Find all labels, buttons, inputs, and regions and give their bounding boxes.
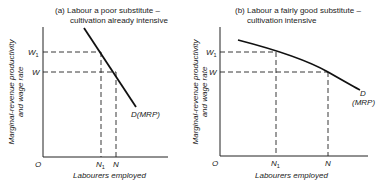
panel-a-w1-label: W1 bbox=[28, 48, 39, 58]
panel-b: (b) Labour a fairly good substitute – cu… bbox=[191, 6, 375, 180]
panel-a-x-label: Labourers employed bbox=[73, 171, 146, 180]
panel-a-n1-label: N1 bbox=[96, 160, 105, 170]
panel-b-n-label: N bbox=[325, 159, 331, 168]
svg-text:and wage rate: and wage rate bbox=[16, 66, 25, 117]
svg-text:Marginal-revenue productivity: Marginal-revenue productivity bbox=[7, 39, 16, 145]
panel-b-title-line1: (b) Labour a fairly good substitute – bbox=[235, 6, 361, 15]
panel-a-n-label: N bbox=[113, 160, 119, 169]
panel-b-curve-label-d: D bbox=[360, 89, 366, 98]
panel-a-y-label: Marginal-revenue productivity and wage r… bbox=[7, 39, 25, 145]
panel-a-origin: O bbox=[35, 160, 41, 169]
panel-a-title-line1: (a) Labour a poor substitute – bbox=[55, 6, 161, 15]
svg-text:Marginal-revenue productivity: Marginal-revenue productivity bbox=[191, 39, 200, 145]
panel-a-demand-curve bbox=[84, 28, 136, 107]
svg-text:and wage rate: and wage rate bbox=[200, 66, 209, 117]
panel-b-n1-label: N1 bbox=[271, 159, 280, 169]
panel-a: (a) Labour a poor substitute – cultivati… bbox=[7, 6, 168, 180]
panel-b-curve-label-mrp: (MRP) bbox=[352, 98, 375, 107]
diagram-canvas: (a) Labour a poor substitute – cultivati… bbox=[0, 0, 382, 186]
panel-b-origin: O bbox=[212, 159, 218, 168]
panel-b-title-line2: cultivation intensive bbox=[247, 16, 317, 25]
panel-b-w-label: W bbox=[209, 68, 218, 77]
panel-b-x-label: Labourers employed bbox=[255, 171, 328, 180]
panel-a-curve-label: D(MRP) bbox=[131, 110, 160, 119]
panel-b-demand-curve bbox=[238, 40, 360, 90]
panel-b-w1-label: W1 bbox=[206, 48, 217, 58]
panel-a-w-label: W bbox=[32, 68, 41, 77]
panel-a-title-line2: cultivation already intensive bbox=[70, 16, 168, 25]
